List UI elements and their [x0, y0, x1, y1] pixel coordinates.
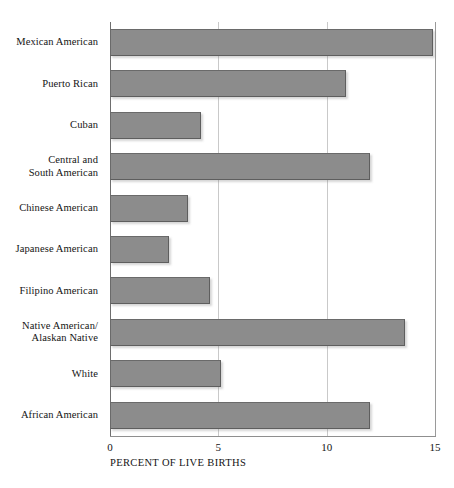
- x-tick-label: 5: [216, 441, 222, 453]
- category-label: Chinese American: [0, 188, 104, 229]
- category-label: Filipino American: [0, 270, 104, 311]
- bar-row: [110, 395, 435, 436]
- x-tick-label: 0: [107, 441, 113, 453]
- category-label-line: Japanese American: [16, 243, 98, 256]
- bar-filipino-american: [110, 277, 210, 304]
- plot-area: [110, 22, 435, 436]
- x-axis-title: PERCENT OF LIVE BIRTHS: [110, 457, 246, 468]
- category-label: Puerto Rican: [0, 63, 104, 104]
- category-label: Mexican American: [0, 22, 104, 63]
- bar-row: [110, 270, 435, 311]
- category-label-line: Chinese American: [19, 202, 98, 215]
- category-label-line: Cuban: [70, 119, 98, 132]
- category-label: Central and South American: [0, 146, 104, 187]
- x-axis-line: [110, 436, 436, 437]
- category-label-line: Puerto Rican: [42, 78, 98, 91]
- category-label-line: White: [72, 368, 98, 381]
- bar-row: [110, 63, 435, 104]
- category-label: African American: [0, 395, 104, 436]
- bar-row: [110, 146, 435, 187]
- bar-row: [110, 229, 435, 270]
- category-label-line: Native American/: [22, 320, 98, 333]
- bar-japanese-american: [110, 236, 169, 263]
- category-label: Cuban: [0, 105, 104, 146]
- category-label: Native American/ Alaskan Native: [0, 312, 104, 353]
- bar-white: [110, 360, 221, 387]
- bar-row: [110, 105, 435, 146]
- category-label: White: [0, 353, 104, 394]
- gridline-15: [435, 22, 436, 436]
- category-label-line: Mexican American: [16, 36, 98, 49]
- bar-row: [110, 22, 435, 63]
- bar-cuban: [110, 112, 201, 139]
- bar-row: [110, 353, 435, 394]
- bar-row: [110, 312, 435, 353]
- category-label: Japanese American: [0, 229, 104, 270]
- category-axis-labels: Mexican American Puerto Rican Cuban Cent…: [0, 22, 104, 436]
- bar-central-and-south-american: [110, 153, 370, 180]
- category-label-line: African American: [21, 409, 98, 422]
- category-label-line: Filipino American: [20, 285, 98, 298]
- bar-african-american: [110, 402, 370, 429]
- x-axis-tick-labels: 0 5 10 15: [0, 441, 454, 457]
- bar-chinese-american: [110, 195, 188, 222]
- category-label-line: South American: [29, 167, 98, 180]
- x-tick-label: 15: [430, 441, 441, 453]
- bar-puerto-rican: [110, 70, 346, 97]
- bar-row: [110, 188, 435, 229]
- category-label-line: Alaskan Native: [22, 332, 98, 345]
- bar-mexican-american: [110, 29, 433, 56]
- bar-native-american-alaskan-native: [110, 319, 405, 346]
- bar-chart: Mexican American Puerto Rican Cuban Cent…: [0, 0, 454, 488]
- category-label-line: Central and: [29, 154, 98, 167]
- x-tick-label: 10: [321, 441, 332, 453]
